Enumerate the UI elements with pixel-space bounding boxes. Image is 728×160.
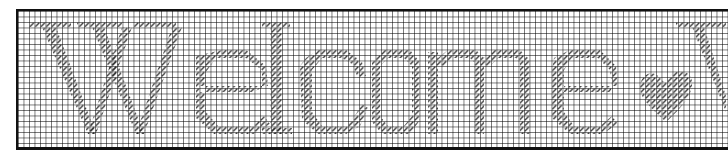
heart-icon: [640, 71, 692, 122]
letter-e-stitched: [196, 50, 270, 134]
letter-m-stitched: [428, 50, 530, 134]
letter-w-stitched: [29, 22, 182, 134]
letter-c-stitched: [300, 50, 368, 134]
letter-e-stitched: [552, 50, 618, 134]
letter-o-stitched: [372, 50, 420, 134]
